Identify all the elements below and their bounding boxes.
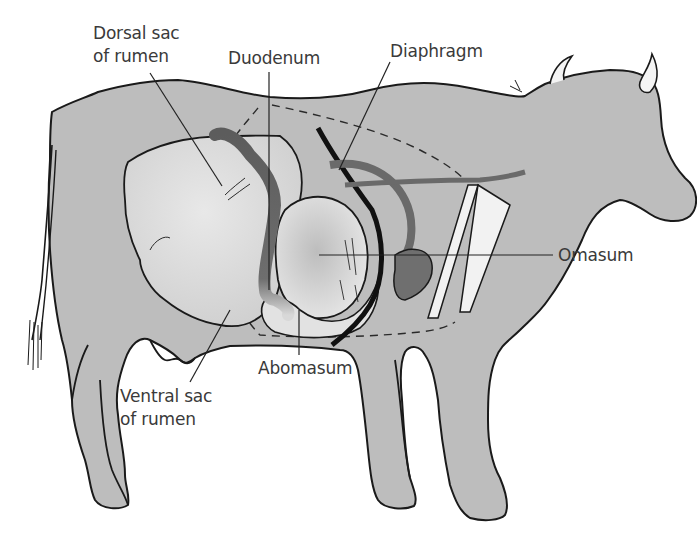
label-duodenum: Duodenum [228,47,320,70]
label-omasum: Omasum [558,244,633,267]
label-diaphragm: Diaphragm [390,40,483,63]
label-dorsal-sac-of-rumen: Dorsal sac of rumen [93,22,180,68]
label-ventral-sac-of-rumen: Ventral sac of rumen [120,385,212,431]
label-abomasum: Abomasum [258,357,352,380]
cow-anatomy-diagram [0,0,697,547]
